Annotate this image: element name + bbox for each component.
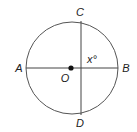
label-b: B [122,62,129,74]
label-c: C [76,6,84,18]
label-o: O [61,72,70,84]
label-a: A [14,62,22,74]
circle-diagram: C D A B O x° [0,0,137,132]
center-point-o [68,65,73,70]
label-d: D [76,117,84,129]
angle-label-x: x° [86,53,98,65]
